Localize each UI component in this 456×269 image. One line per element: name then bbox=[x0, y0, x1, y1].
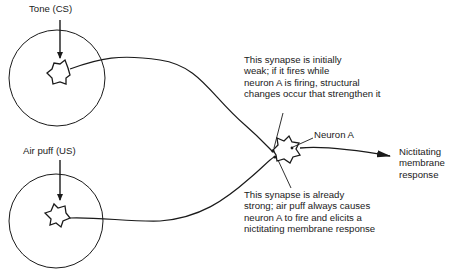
output-line-3: response bbox=[399, 169, 445, 180]
tone-neuron-star-icon bbox=[47, 60, 70, 84]
output-line-2: membrane bbox=[399, 157, 445, 168]
tone-axon bbox=[70, 57, 273, 152]
weak-annotation-line-2: weak; if it fires while bbox=[244, 65, 381, 76]
neuron-a-pointer-dot bbox=[291, 147, 294, 150]
weak-annotation-line-1: This synapse is initially bbox=[244, 54, 381, 65]
neuron-a-label: Neuron A bbox=[314, 129, 354, 140]
output-axon-arrow bbox=[300, 147, 390, 156]
strong-annotation-line-4: nictitating membrane response bbox=[244, 223, 375, 234]
weak-synapse-annotation: This synapse is initially weak; if it fi… bbox=[244, 54, 381, 100]
strong-synapse-dot bbox=[273, 155, 276, 158]
tone-cs-label: Tone (CS) bbox=[29, 3, 72, 14]
strong-synapse-pointer bbox=[278, 160, 291, 188]
neuron-a-star-icon bbox=[273, 136, 300, 163]
airpuff-neuron-star-icon bbox=[45, 204, 70, 227]
weak-annotation-line-3: neuron A is firing, structural bbox=[244, 77, 381, 88]
conditioning-circuit-diagram bbox=[0, 0, 456, 269]
output-line-1: Nictitating bbox=[399, 146, 445, 157]
weak-annotation-line-4: changes occur that strengthen it bbox=[244, 88, 381, 99]
airpuff-us-label: Air puff (US) bbox=[23, 145, 76, 156]
strong-annotation-line-2: strong; air puff always causes bbox=[244, 200, 375, 211]
weak-synapse-dot bbox=[271, 149, 274, 152]
strong-annotation-line-3: neuron A to fire and elicits a bbox=[244, 212, 375, 223]
strong-annotation-line-1: This synapse is already bbox=[244, 189, 375, 200]
strong-synapse-annotation: This synapse is already strong; air puff… bbox=[244, 189, 375, 235]
output-label: Nictitating membrane response bbox=[399, 146, 445, 180]
